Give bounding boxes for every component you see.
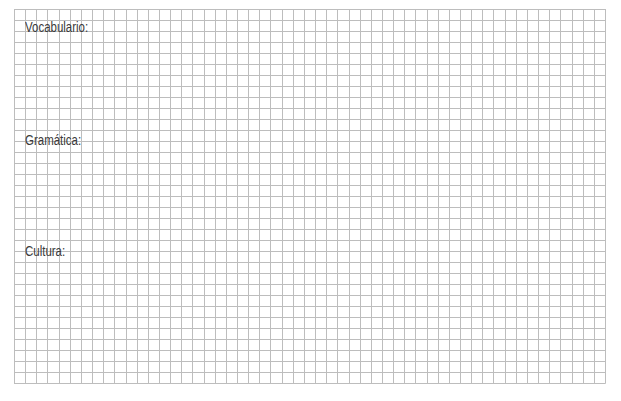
section-label-vocabulario: Vocabulario: [25,20,88,34]
grid-lines [0,0,621,401]
grid-paper-worksheet: Vocabulario: Gramática: Cultura: [0,0,621,401]
section-label-gramatica: Gramática: [25,133,81,147]
section-label-cultura: Cultura: [25,244,65,258]
